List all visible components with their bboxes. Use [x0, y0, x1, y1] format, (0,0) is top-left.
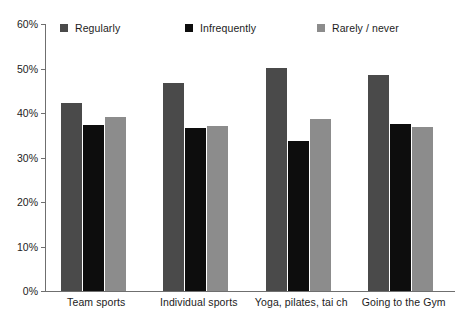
bar-chart: RegularlyInfrequentlyRarely / never 0%10… — [0, 0, 463, 322]
x-axis-label: Going to the Gym — [353, 296, 456, 309]
bar[interactable] — [163, 83, 184, 291]
bar[interactable] — [83, 125, 104, 291]
y-tick-mark — [41, 113, 45, 114]
y-tick-mark — [41, 291, 45, 292]
x-axis-label: Individual sports — [148, 296, 251, 309]
y-tick-mark — [41, 69, 45, 70]
y-tick-mark — [41, 24, 45, 25]
bar[interactable] — [368, 75, 389, 291]
bar[interactable] — [288, 141, 309, 291]
bar[interactable] — [412, 127, 433, 291]
bar[interactable] — [185, 128, 206, 291]
y-tick-mark — [41, 202, 45, 203]
y-tick-mark — [41, 158, 45, 159]
bar[interactable] — [310, 119, 331, 291]
y-tick-label: 50% — [17, 63, 38, 75]
bar-group — [368, 24, 433, 291]
bar-group — [266, 24, 331, 291]
y-tick-label: 60% — [17, 18, 38, 30]
y-tick-mark — [41, 247, 45, 248]
y-tick-label: 20% — [17, 196, 38, 208]
x-axis-category-labels: Team sportsIndividual sportsYoga, pilate… — [45, 296, 455, 312]
x-axis-label: Yoga, pilates, tai ch — [250, 296, 353, 309]
bar[interactable] — [105, 117, 126, 291]
bar-group — [163, 24, 228, 291]
bar-group — [61, 24, 126, 291]
bar[interactable] — [207, 126, 228, 291]
y-tick-label: 0% — [23, 285, 38, 297]
bar[interactable] — [266, 68, 287, 291]
bars-layer — [46, 24, 455, 292]
x-axis-label: Team sports — [45, 296, 148, 309]
plot-area: 0%10%20%30%40%50%60% — [45, 24, 455, 292]
y-tick-label: 40% — [17, 107, 38, 119]
bar[interactable] — [61, 103, 82, 291]
bar[interactable] — [390, 124, 411, 291]
y-tick-label: 30% — [17, 152, 38, 164]
y-tick-label: 10% — [17, 241, 38, 253]
